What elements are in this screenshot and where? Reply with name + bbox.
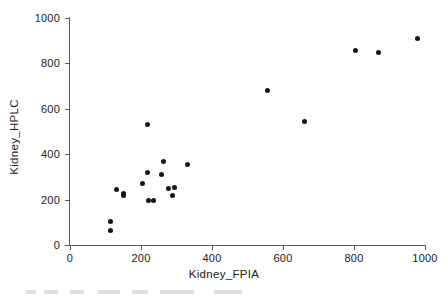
x-axis-title: Kidney_FPIA xyxy=(0,268,448,280)
data-point xyxy=(145,170,150,175)
data-point xyxy=(145,122,150,127)
data-point xyxy=(146,198,151,203)
x-tick-label: 800 xyxy=(345,252,364,264)
x-tick-mark xyxy=(212,246,213,250)
y-tick-mark xyxy=(65,109,69,110)
x-tick-mark xyxy=(70,246,71,250)
data-point xyxy=(265,88,270,93)
x-tick-label: 200 xyxy=(132,252,151,264)
y-tick-label: 0 xyxy=(54,239,60,251)
data-point xyxy=(376,50,381,55)
page-bottom-text-smudge xyxy=(24,290,262,294)
scatter-plot-figure: 0200400600800100002004006008001000 Kidne… xyxy=(0,0,448,299)
data-point xyxy=(140,181,145,186)
y-tick-label: 400 xyxy=(41,148,60,160)
x-tick-mark xyxy=(354,246,355,250)
x-tick-label: 400 xyxy=(203,252,222,264)
y-tick-mark xyxy=(65,63,69,64)
y-axis-title: Kidney_HPLC xyxy=(8,77,20,197)
data-point xyxy=(161,159,166,164)
x-axis-line xyxy=(69,245,426,246)
y-tick-label: 800 xyxy=(41,57,60,69)
y-tick-label: 200 xyxy=(41,194,60,206)
data-point xyxy=(185,162,190,167)
x-tick-mark xyxy=(425,246,426,250)
y-tick-mark xyxy=(65,154,69,155)
y-tick-mark xyxy=(65,200,69,201)
x-tick-label: 0 xyxy=(67,252,73,264)
y-tick-label: 600 xyxy=(41,103,60,115)
y-tick-mark xyxy=(65,18,69,19)
y-tick-label: 1000 xyxy=(35,12,60,24)
data-point xyxy=(302,119,307,124)
x-tick-mark xyxy=(141,246,142,250)
x-tick-label: 1000 xyxy=(412,252,437,264)
y-tick-mark xyxy=(65,245,69,246)
plot-area xyxy=(70,18,425,245)
x-tick-mark xyxy=(283,246,284,250)
data-point xyxy=(172,185,177,190)
x-tick-label: 600 xyxy=(274,252,293,264)
